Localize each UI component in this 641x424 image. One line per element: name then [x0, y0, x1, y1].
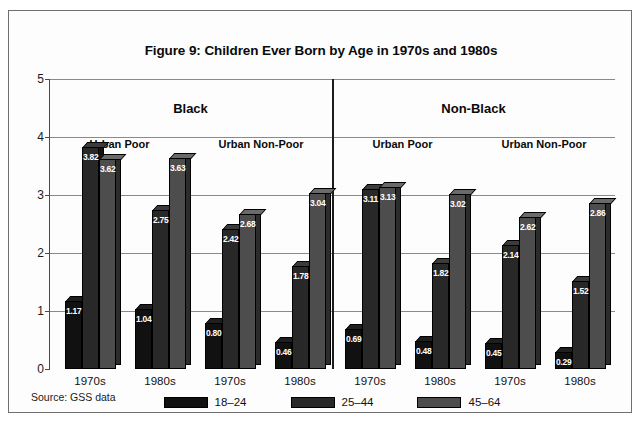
y-tick-label: 2 [37, 246, 44, 260]
bar: 2.75 [152, 210, 169, 370]
bar-value-label: 0.69 [346, 334, 361, 344]
bar-front-face [99, 159, 116, 369]
bar-side-face [466, 190, 471, 365]
bar: 1.82 [432, 263, 449, 369]
bar: 1.52 [572, 281, 589, 369]
bar-value-label: 1.52 [573, 286, 588, 296]
subgroup-header: Urban Poor [49, 138, 190, 150]
subgroup-header: Urban Non-Poor [191, 138, 332, 150]
bar-value-label: 0.48 [416, 346, 431, 356]
legend-item: 18–24 [164, 396, 247, 408]
bar-front-face [309, 193, 326, 369]
bar-value-label: 1.17 [66, 306, 81, 316]
panel-divider [332, 79, 334, 369]
figure-frame: Figure 9: Children Ever Born by Age in 1… [8, 10, 632, 413]
bar-value-label: 0.29 [556, 357, 571, 367]
bar-side-face [396, 183, 401, 365]
bar-value-label: 2.68 [240, 219, 255, 229]
y-tick-mark [45, 195, 50, 196]
legend-item: 25–44 [291, 396, 374, 408]
bar-value-label: 0.46 [276, 347, 291, 357]
bar-value-label: 2.42 [223, 234, 238, 244]
y-tick-mark [45, 311, 50, 312]
bar-front-face [222, 229, 239, 369]
subgroup-header: Urban Poor [332, 138, 473, 150]
bar-value-label: 3.82 [83, 152, 98, 162]
bar-side-face [326, 189, 331, 365]
y-tick-mark [45, 79, 50, 80]
bar-side-face [536, 213, 541, 365]
panel-header-black: Black [49, 101, 332, 116]
bar: 3.02 [449, 194, 466, 369]
y-tick-mark [45, 369, 50, 370]
subgroup-header: Urban Non-Poor [474, 138, 615, 150]
bar: 2.42 [222, 229, 239, 369]
bar-side-face [186, 154, 191, 365]
legend-swatch [164, 397, 208, 408]
y-axis-line [49, 79, 50, 369]
bar: 2.14 [502, 245, 519, 369]
bar-front-face [82, 147, 99, 369]
legend-swatch [291, 397, 335, 408]
bar: 3.63 [169, 158, 186, 369]
y-tick-label: 1 [37, 304, 44, 318]
y-tick-label: 5 [37, 72, 44, 86]
bar-front-face [239, 214, 256, 369]
bar-front-face [449, 194, 466, 369]
bar-value-label: 1.04 [136, 314, 151, 324]
bar-value-label: 2.62 [520, 222, 535, 232]
bar: 3.04 [309, 193, 326, 369]
bar-value-label: 2.75 [153, 215, 168, 225]
bar-value-label: 0.45 [486, 348, 501, 358]
figure-title: Figure 9: Children Ever Born by Age in 1… [9, 43, 633, 58]
bar: 0.29 [555, 352, 572, 369]
bar: 1.04 [135, 309, 152, 369]
y-tick-label: 4 [37, 130, 44, 144]
bar: 1.78 [292, 266, 309, 369]
bar: 0.45 [485, 343, 502, 369]
bar: 3.13 [379, 187, 396, 369]
bar-front-face [432, 263, 449, 369]
bar-value-label: 0.80 [206, 328, 221, 338]
legend-swatch [417, 397, 461, 408]
panel-header-non-black: Non-Black [332, 101, 615, 116]
bar: 3.11 [362, 189, 379, 369]
bar-front-face [502, 245, 519, 369]
legend-label: 45–64 [468, 396, 500, 408]
bar: 2.86 [589, 203, 606, 369]
bar-front-face [362, 189, 379, 369]
bar-front-face [379, 187, 396, 369]
bar-front-face [152, 210, 169, 370]
bar-value-label: 2.86 [590, 208, 605, 218]
legend-label: 18–24 [215, 396, 247, 408]
bar-front-face [589, 203, 606, 369]
x-axis-label: 1980s [535, 375, 625, 387]
legend: 18–2425–4445–64 [49, 396, 615, 408]
y-tick-label: 0 [37, 362, 44, 376]
bar: 2.68 [239, 214, 256, 369]
legend-item: 45–64 [417, 396, 500, 408]
bar: 0.46 [275, 342, 292, 369]
bar-value-label: 2.14 [503, 250, 518, 260]
bar-front-face [169, 158, 186, 369]
y-tick-label: 3 [37, 188, 44, 202]
bar-value-label: 3.62 [100, 164, 115, 174]
bar: 3.82 [82, 147, 99, 369]
bar-value-label: 3.02 [450, 199, 465, 209]
bar-side-face [256, 210, 261, 365]
bar-front-face [519, 217, 536, 369]
bar-side-face [606, 199, 611, 365]
plot-area: 012345 BlackNon-Black Urban PoorUrban No… [49, 79, 615, 369]
bar: 3.62 [99, 159, 116, 369]
bar: 0.69 [345, 329, 362, 369]
bar-side-face [116, 155, 121, 365]
y-tick-mark [45, 253, 50, 254]
bar: 0.80 [205, 323, 222, 369]
bar-value-label: 3.11 [363, 194, 378, 204]
bar: 2.62 [519, 217, 536, 369]
bar-value-label: 3.13 [380, 192, 395, 202]
bar: 0.48 [415, 341, 432, 369]
bar-value-label: 3.63 [170, 163, 185, 173]
bar: 1.17 [65, 301, 82, 369]
legend-label: 25–44 [342, 396, 374, 408]
